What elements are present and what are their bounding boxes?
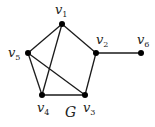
graph-title: G <box>65 104 76 120</box>
node-label-v3: v3 <box>83 100 95 117</box>
node-v4 <box>39 92 45 98</box>
node-label-v5: v5 <box>8 45 20 62</box>
edge-v1-v5 <box>28 24 62 53</box>
graph-diagram: v1v2v3v4v5v6 G <box>0 0 155 127</box>
node-label-v6: v6 <box>137 32 149 49</box>
edge-v1-v4 <box>42 24 62 95</box>
edge-v1-v2 <box>62 24 96 53</box>
graph-nodes <box>25 21 144 98</box>
graph-labels: v1v2v3v4v5v6 <box>8 2 149 117</box>
node-label-v1: v1 <box>55 2 67 19</box>
node-v2 <box>93 50 99 56</box>
graph-edges <box>28 24 141 95</box>
edge-v5-v3 <box>28 53 85 95</box>
node-label-v2: v2 <box>96 32 108 49</box>
node-v3 <box>82 92 88 98</box>
node-label-v4: v4 <box>37 100 49 117</box>
edge-v2-v3 <box>85 53 96 95</box>
edge-v5-v4 <box>28 53 42 95</box>
node-v1 <box>59 21 65 27</box>
node-v5 <box>25 50 31 56</box>
node-v6 <box>138 50 144 56</box>
